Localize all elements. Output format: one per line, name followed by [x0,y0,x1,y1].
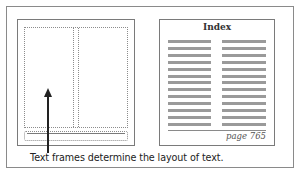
index-text-line [168,88,211,91]
index-text-line [222,81,266,84]
main-text-frame [24,27,128,128]
index-text-line [222,123,266,126]
index-text-line [168,81,211,84]
index-text-line [222,95,266,98]
index-text-line [222,68,266,71]
index-text-line [222,40,266,43]
column-gutter-left-edge [73,28,74,127]
index-text-line [168,61,211,64]
index-title: Index [159,22,275,32]
index-text-line [168,123,211,126]
index-text-line [168,116,211,119]
arrow-head-icon [44,88,52,97]
index-text-line [168,54,211,57]
page-number: page 765 [168,131,266,141]
index-text-line [222,54,266,57]
index-text-line [222,47,266,50]
index-text-line [168,40,211,43]
index-text-line [168,75,211,78]
index-text-line [222,109,266,112]
index-text-line [168,47,211,50]
arrow-up-icon [47,96,49,153]
index-text-line [168,102,211,105]
column-gutter-right-edge [78,28,79,127]
figure-caption: Text frames determine the layout of text… [30,152,223,163]
footer-rule [27,133,125,134]
index-text-line [222,116,266,119]
index-text-line [222,102,266,105]
index-text-line [222,88,266,91]
index-text-line [168,95,211,98]
index-text-line [222,75,266,78]
index-text-line [168,68,211,71]
index-text-line [168,109,211,112]
index-text-line [222,61,266,64]
